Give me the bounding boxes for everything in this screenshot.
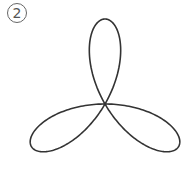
rose-curve-petals [30,19,180,152]
flower-diagram [0,0,195,191]
